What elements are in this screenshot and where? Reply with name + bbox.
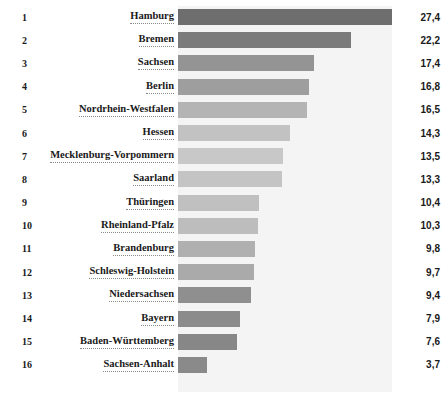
category-label-cell: Thüringen <box>40 196 174 210</box>
bar <box>178 357 207 373</box>
bar-track <box>178 284 392 307</box>
category-label: Baden-Württemberg <box>80 335 174 349</box>
value-label: 3,7 <box>396 359 440 370</box>
rank-number: 2 <box>22 35 40 46</box>
value-label: 14,3 <box>396 128 440 139</box>
value-label: 17,4 <box>396 58 440 69</box>
bar <box>178 148 283 164</box>
rank-number: 10 <box>22 220 40 231</box>
bar-track <box>178 353 392 376</box>
category-label-cell: Bremen <box>40 33 174 47</box>
rank-number: 4 <box>22 81 40 92</box>
category-label-cell: Bayern <box>40 312 174 326</box>
value-label: 9,4 <box>396 290 440 301</box>
category-label-cell: Schleswig-Holstein <box>40 265 174 279</box>
chart-row: 11Brandenburg9,8 <box>0 237 448 260</box>
chart-row: 12Schleswig-Holstein9,7 <box>0 261 448 284</box>
bar <box>178 171 282 187</box>
value-label: 7,6 <box>396 336 440 347</box>
chart-row: 2Bremen22,2 <box>0 29 448 52</box>
category-label-cell: Berlin <box>40 80 174 94</box>
bar <box>178 55 314 71</box>
bar-track <box>178 52 392 75</box>
category-label-cell: Saarland <box>40 172 174 186</box>
rank-number: 16 <box>22 359 40 370</box>
rank-number: 1 <box>22 12 40 23</box>
value-label: 16,8 <box>396 81 440 92</box>
bar-track <box>178 6 392 29</box>
value-label: 16,5 <box>396 104 440 115</box>
category-label: Mecklenburg-Vorpommern <box>50 149 174 163</box>
category-label: Nordrhein-Westfalen <box>79 103 174 117</box>
bar <box>178 287 251 303</box>
category-label: Hamburg <box>130 10 174 24</box>
category-label: Saarland <box>133 172 174 186</box>
value-label: 9,8 <box>396 243 440 254</box>
bar-track <box>178 237 392 260</box>
chart-row: 1Hamburg27,4 <box>0 6 448 29</box>
rank-number: 9 <box>22 197 40 208</box>
rank-number: 15 <box>22 336 40 347</box>
chart-row: 15Baden-Württemberg7,6 <box>0 330 448 353</box>
category-label-cell: Baden-Württemberg <box>40 335 174 349</box>
rank-number: 12 <box>22 267 40 278</box>
chart-row: 16Sachsen-Anhalt3,7 <box>0 353 448 376</box>
category-label-cell: Nordrhein-Westfalen <box>40 103 174 117</box>
bar <box>178 9 392 25</box>
category-label: Hessen <box>143 126 175 140</box>
bar-track <box>178 330 392 353</box>
category-label: Brandenburg <box>113 242 174 256</box>
rank-number: 7 <box>22 151 40 162</box>
bar <box>178 241 255 257</box>
category-label: Sachsen-Anhalt <box>103 358 174 372</box>
bar-track <box>178 214 392 237</box>
value-label: 9,7 <box>396 267 440 278</box>
category-label-cell: Brandenburg <box>40 242 174 256</box>
category-label-cell: Sachsen <box>40 56 174 70</box>
category-label-cell: Sachsen-Anhalt <box>40 358 174 372</box>
category-label: Sachsen <box>138 56 174 70</box>
value-label: 13,3 <box>396 174 440 185</box>
category-label: Schleswig-Holstein <box>89 265 174 279</box>
bar-track <box>178 307 392 330</box>
chart-row: 4Berlin16,8 <box>0 75 448 98</box>
chart-row: 14Bayern7,9 <box>0 307 448 330</box>
bar <box>178 334 237 350</box>
chart-row: 3Sachsen17,4 <box>0 52 448 75</box>
rank-number: 5 <box>22 104 40 115</box>
rank-number: 11 <box>22 243 40 254</box>
bar <box>178 79 309 95</box>
bar <box>178 32 351 48</box>
chart-row: 5Nordrhein-Westfalen16,5 <box>0 98 448 121</box>
category-label: Berlin <box>146 80 174 94</box>
bar <box>178 218 258 234</box>
chart-row: 6Hessen14,3 <box>0 121 448 144</box>
value-label: 13,5 <box>396 151 440 162</box>
category-label: Rheinland-Pfalz <box>101 219 174 233</box>
bar-track <box>178 75 392 98</box>
bar-track <box>178 29 392 52</box>
bar <box>178 311 240 327</box>
value-label: 10,4 <box>396 197 440 208</box>
category-label-cell: Hessen <box>40 126 174 140</box>
category-label: Thüringen <box>126 196 174 210</box>
category-label-cell: Hamburg <box>40 10 174 24</box>
category-label-cell: Rheinland-Pfalz <box>40 219 174 233</box>
category-label: Bayern <box>141 312 174 326</box>
value-label: 22,2 <box>396 35 440 46</box>
bar-track <box>178 121 392 144</box>
category-label-cell: Mecklenburg-Vorpommern <box>40 149 174 163</box>
chart-row: 10Rheinland-Pfalz10,3 <box>0 214 448 237</box>
bar-track <box>178 261 392 284</box>
bar-track <box>178 168 392 191</box>
value-label: 10,3 <box>396 220 440 231</box>
bar <box>178 125 290 141</box>
rank-number: 14 <box>22 313 40 324</box>
rank-number: 6 <box>22 128 40 139</box>
bar <box>178 102 307 118</box>
chart-row: 8Saarland13,3 <box>0 168 448 191</box>
value-label: 27,4 <box>396 12 440 23</box>
bar-chart: 1Hamburg27,42Bremen22,23Sachsen17,44Berl… <box>0 0 448 398</box>
bar-track <box>178 145 392 168</box>
rank-number: 8 <box>22 174 40 185</box>
